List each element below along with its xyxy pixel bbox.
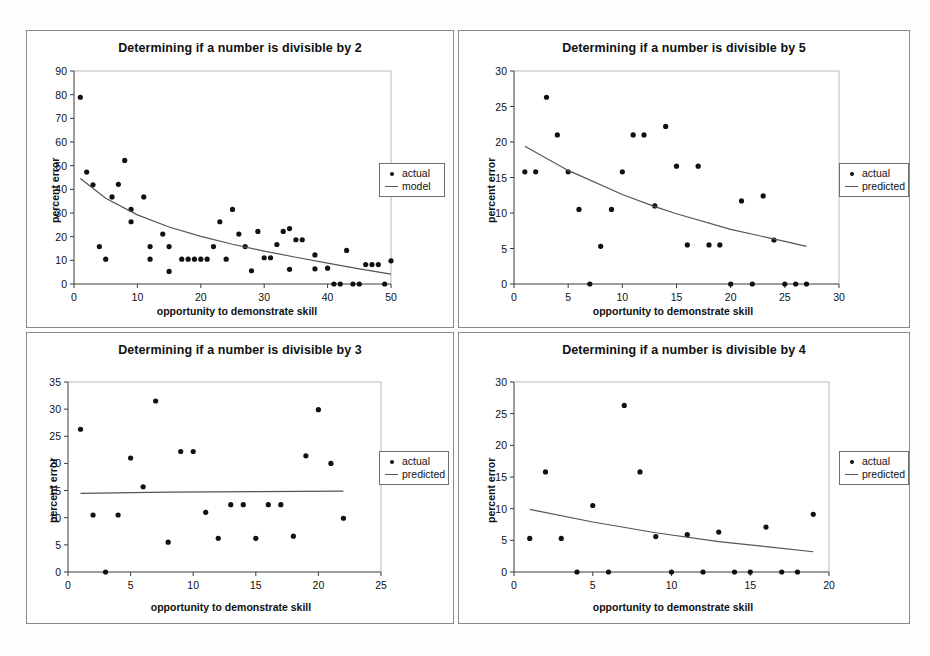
chart-panel-div3: Determining if a number is divisible by … xyxy=(26,332,454,624)
legend-line-icon xyxy=(844,474,859,475)
svg-text:10: 10 xyxy=(616,291,628,303)
svg-text:30: 30 xyxy=(49,403,61,415)
svg-text:15: 15 xyxy=(495,471,507,483)
svg-text:0: 0 xyxy=(55,566,61,578)
svg-text:5: 5 xyxy=(565,291,571,303)
svg-text:30: 30 xyxy=(258,291,270,303)
svg-text:10: 10 xyxy=(132,291,144,303)
svg-text:10: 10 xyxy=(666,579,678,591)
svg-text:20: 20 xyxy=(313,579,325,591)
legend-item: predicted xyxy=(844,180,903,193)
svg-text:60: 60 xyxy=(55,136,67,148)
svg-text:0: 0 xyxy=(511,291,517,303)
chart-panel-div4: Determining if a number is divisible by … xyxy=(458,332,910,624)
svg-text:0: 0 xyxy=(501,278,507,290)
svg-text:40: 40 xyxy=(322,291,334,303)
legend-div5: actual predicted xyxy=(839,163,909,197)
svg-text:15: 15 xyxy=(671,291,683,303)
legend-dot-icon xyxy=(844,460,859,464)
x-axis-label-div5: opportunity to demonstrate skill xyxy=(503,305,843,317)
svg-text:5: 5 xyxy=(55,539,61,551)
svg-text:80: 80 xyxy=(55,89,67,101)
svg-text:10: 10 xyxy=(187,579,199,591)
legend-item: actual xyxy=(844,167,903,180)
svg-text:10: 10 xyxy=(495,207,507,219)
svg-text:20: 20 xyxy=(55,231,67,243)
y-axis-label-div2: percent error xyxy=(49,158,61,223)
svg-text:35: 35 xyxy=(49,376,61,388)
svg-text:20: 20 xyxy=(823,579,835,591)
svg-text:30: 30 xyxy=(495,65,507,77)
svg-text:15: 15 xyxy=(495,172,507,184)
svg-text:25: 25 xyxy=(49,430,61,442)
legend-label: predicted xyxy=(402,468,445,481)
svg-text:30: 30 xyxy=(833,291,845,303)
svg-text:10: 10 xyxy=(55,254,67,266)
figure-sheet: Determining if a number is divisible by … xyxy=(0,0,930,656)
y-axis-label-div3: percent error xyxy=(47,458,59,523)
svg-text:5: 5 xyxy=(590,579,596,591)
svg-text:15: 15 xyxy=(744,579,756,591)
svg-text:5: 5 xyxy=(501,243,507,255)
svg-text:20: 20 xyxy=(195,291,207,303)
svg-text:20: 20 xyxy=(495,439,507,451)
legend-item: actual xyxy=(384,455,443,468)
svg-text:25: 25 xyxy=(495,408,507,420)
legend-label: actual xyxy=(862,167,890,180)
svg-text:0: 0 xyxy=(501,566,507,578)
legend-item: actual xyxy=(844,455,903,468)
svg-text:30: 30 xyxy=(495,376,507,388)
legend-dot-icon xyxy=(844,172,859,176)
x-axis-label-div3: opportunity to demonstrate skill xyxy=(61,601,401,613)
x-axis-label-div2: opportunity to demonstrate skill xyxy=(67,305,407,317)
svg-text:0: 0 xyxy=(71,291,77,303)
svg-text:25: 25 xyxy=(375,579,387,591)
legend-line-icon xyxy=(384,474,399,475)
legend-div3: actual predicted xyxy=(379,451,449,485)
legend-label: actual xyxy=(402,455,430,468)
legend-item: predicted xyxy=(844,468,903,481)
svg-text:90: 90 xyxy=(55,65,67,77)
legend-label: actual xyxy=(862,455,890,468)
legend-div4: actual predicted xyxy=(839,451,909,485)
chart-panel-div2: Determining if a number is divisible by … xyxy=(26,30,454,328)
x-axis-label-div4: opportunity to demonstrate skill xyxy=(503,601,843,613)
legend-label: predicted xyxy=(862,468,905,481)
svg-text:0: 0 xyxy=(65,579,71,591)
svg-text:20: 20 xyxy=(725,291,737,303)
legend-line-icon xyxy=(384,186,399,187)
legend-dot-icon xyxy=(384,460,399,464)
legend-label: actual xyxy=(402,167,430,180)
legend-item: actual xyxy=(384,167,439,180)
svg-text:20: 20 xyxy=(495,136,507,148)
svg-text:0: 0 xyxy=(61,278,67,290)
svg-text:10: 10 xyxy=(495,503,507,515)
legend-line-icon xyxy=(844,186,859,187)
y-axis-label-div4: percent error xyxy=(485,458,497,523)
legend-div2: actual model xyxy=(379,163,445,197)
svg-text:25: 25 xyxy=(779,291,791,303)
legend-label: model xyxy=(402,180,431,193)
svg-text:25: 25 xyxy=(495,101,507,113)
legend-item: predicted xyxy=(384,468,443,481)
y-axis-label-div5: percent error xyxy=(485,158,497,223)
svg-text:5: 5 xyxy=(128,579,134,591)
svg-text:0: 0 xyxy=(511,579,517,591)
legend-item: model xyxy=(384,180,439,193)
svg-text:50: 50 xyxy=(385,291,397,303)
legend-label: predicted xyxy=(862,180,905,193)
chart-panel-div5: Determining if a number is divisible by … xyxy=(458,30,910,328)
legend-dot-icon xyxy=(384,172,399,176)
svg-text:70: 70 xyxy=(55,112,67,124)
svg-text:5: 5 xyxy=(501,534,507,546)
svg-text:15: 15 xyxy=(250,579,262,591)
